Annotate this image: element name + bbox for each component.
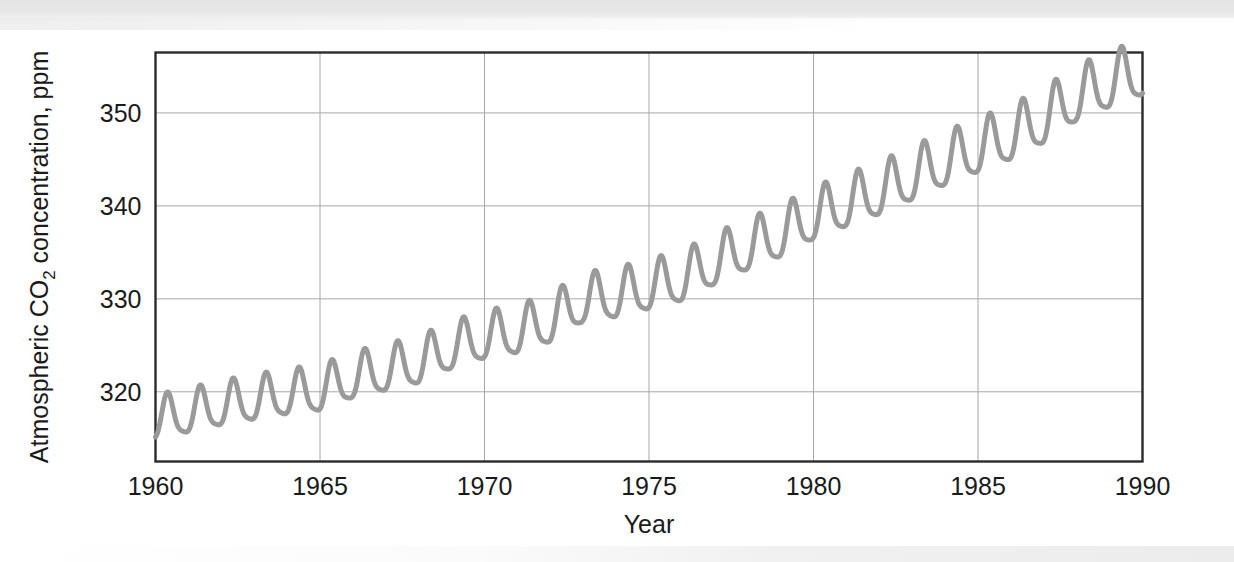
y-tick-label-340: 340 <box>100 192 142 220</box>
x-tick-label-1975: 1975 <box>621 472 677 500</box>
x-tick-label-1965: 1965 <box>292 472 348 500</box>
x-tick-label-1990: 1990 <box>1115 472 1171 500</box>
co2-keeling-curve-figure: 320330340350 196019651970197519801985199… <box>0 0 1234 562</box>
vertical-gridlines <box>320 53 978 462</box>
x-tick-label-1980: 1980 <box>786 472 842 500</box>
x-tick-label-1985: 1985 <box>950 472 1006 500</box>
y-axis-title-lead: Atmospheric CO <box>25 280 53 463</box>
x-tick-label-1970: 1970 <box>457 472 513 500</box>
y-axis-title-trail: concentration, ppm <box>25 51 53 271</box>
y-axis-tick-labels: 320330340350 <box>100 99 142 406</box>
x-axis-tick-labels: 1960196519701975198019851990 <box>128 472 1171 500</box>
y-axis-title-subscript: 2 <box>40 270 59 279</box>
y-tick-label-320: 320 <box>100 378 142 406</box>
x-axis-title: Year <box>624 510 675 538</box>
y-tick-label-330: 330 <box>100 285 142 313</box>
chart-canvas: 320330340350 196019651970197519801985199… <box>0 0 1234 562</box>
y-tick-label-350: 350 <box>100 99 142 127</box>
y-axis-title: Atmospheric CO2 concentration, ppm <box>25 51 59 463</box>
x-tick-label-1960: 1960 <box>128 472 184 500</box>
y-axis-title-text: Atmospheric CO2 concentration, ppm <box>25 51 59 463</box>
